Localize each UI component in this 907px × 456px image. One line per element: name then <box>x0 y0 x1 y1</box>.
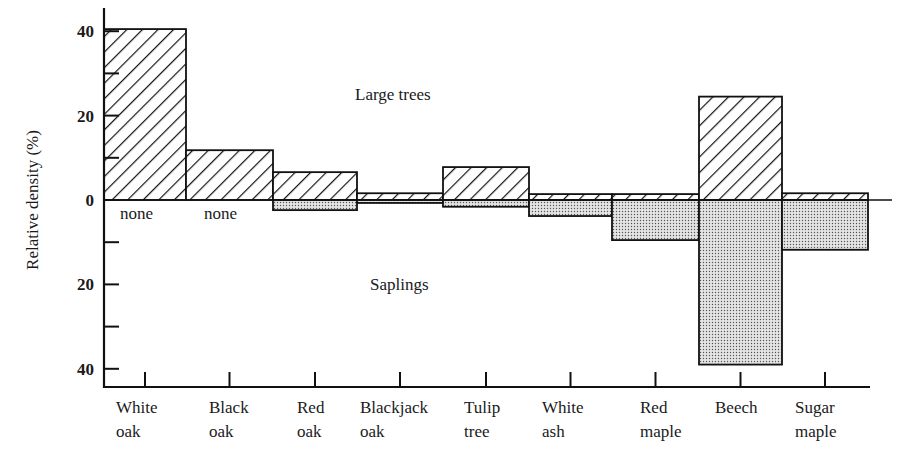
large-tree-bar-blackjack-oak <box>357 193 443 200</box>
y-tick-label: 20 <box>77 107 94 126</box>
category-label-line1: Blackjack <box>360 398 428 417</box>
category-label-line1: Beech <box>715 398 758 417</box>
category-label-line1: Red <box>297 398 325 417</box>
category-label-line2: maple <box>795 422 837 441</box>
sapling-bar-sugar-maple <box>782 200 868 250</box>
category-label-line1: Tulip <box>464 398 500 417</box>
category-labels: WhiteoakBlackoakRedoakBlackjackoakTulipt… <box>116 398 837 441</box>
saplings-annotation: Saplings <box>370 275 429 294</box>
category-label-line2: maple <box>640 422 682 441</box>
large-trees-bars <box>104 29 868 200</box>
y-axis-label: Relative density (%) <box>23 130 42 270</box>
sapling-bar-beech <box>699 200 782 365</box>
category-label-line2: oak <box>209 422 234 441</box>
large-tree-bar-tulip-tree <box>443 167 529 200</box>
black-oak-none-label: none <box>204 204 237 223</box>
category-label-line2: ash <box>542 422 565 441</box>
bar-chart: 402002040 WhiteoakBlackoakRedoakBlackjac… <box>0 0 907 456</box>
large-tree-bar-white-oak <box>104 29 186 200</box>
large-tree-bar-red-oak <box>273 172 357 200</box>
sapling-bar-white-ash <box>529 200 612 216</box>
category-label-line2: oak <box>297 422 322 441</box>
saplings-bars <box>273 200 868 365</box>
large-tree-bar-black-oak <box>186 150 273 200</box>
large-trees-annotation: Large trees <box>355 85 431 104</box>
y-tick-label: 40 <box>77 22 94 41</box>
category-label-line1: Sugar <box>795 398 835 417</box>
category-label-line2: oak <box>116 422 141 441</box>
x-ticks <box>145 372 825 387</box>
category-label-line1: White <box>542 398 584 417</box>
sapling-bar-tulip-tree <box>443 200 529 207</box>
large-tree-bar-sugar-maple <box>782 193 868 200</box>
sapling-bar-red-oak <box>273 200 357 210</box>
category-label-line2: tree <box>464 422 489 441</box>
category-label-line2: oak <box>360 422 385 441</box>
sapling-bar-red-maple <box>612 200 699 240</box>
category-label-line1: Red <box>640 398 668 417</box>
y-tick-label: 0 <box>86 191 95 210</box>
white-oak-none-label: none <box>120 204 153 223</box>
category-label-line1: White <box>116 398 158 417</box>
large-tree-bar-beech <box>699 97 782 200</box>
y-tick-label: 20 <box>77 275 94 294</box>
y-tick-label: 40 <box>77 360 94 379</box>
category-label-line1: Black <box>209 398 249 417</box>
